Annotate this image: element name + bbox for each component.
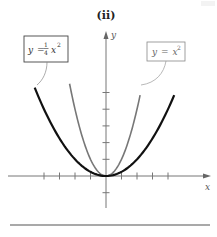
svg-text:y = x: y = x <box>151 47 177 57</box>
y-axis-arrow-icon <box>104 31 109 39</box>
svg-text:1: 1 <box>44 41 48 48</box>
y-axis-label: y <box>110 30 117 40</box>
figure-title: (ii) <box>97 9 116 22</box>
svg-text:4: 4 <box>44 49 48 56</box>
svg-text:x: x <box>51 45 56 55</box>
svg-text:2: 2 <box>57 41 61 48</box>
callout-leader-line <box>37 62 47 85</box>
callout-wide-parabola: y = 1 4 x 2 <box>24 36 68 85</box>
x-axis-label: x <box>205 182 210 192</box>
callout-leader-line <box>141 61 166 85</box>
svg-text:y =: y = <box>27 45 45 55</box>
narrow-parabola-curve <box>70 84 141 176</box>
svg-text:2: 2 <box>177 44 181 51</box>
wide-parabola-curve <box>35 88 175 176</box>
callout-narrow-parabola: y = x 2 <box>141 42 185 85</box>
y-axis: y <box>103 30 118 208</box>
x-axis-arrow-icon <box>203 174 211 179</box>
parabola-figure: (ii) x y y = 1 4 x 2 y = x <box>0 0 217 237</box>
